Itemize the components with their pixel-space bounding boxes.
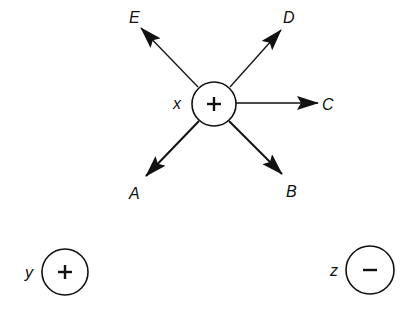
force-arrow-a (146, 121, 199, 176)
arrow-label-b: B (286, 183, 297, 200)
charge-label-z: z (329, 262, 338, 279)
charge-label-y: y (24, 264, 34, 281)
charge-force-diagram: ABCDExyz (0, 0, 409, 323)
arrow-shaft-e (141, 28, 198, 87)
charge-label-x: x (172, 95, 182, 112)
charge-y (42, 249, 88, 295)
force-arrow-d (230, 30, 281, 87)
arrow-label-a: A (128, 185, 140, 202)
force-arrow-b (229, 121, 282, 174)
charge-z (346, 246, 394, 294)
arrow-shaft-a (146, 121, 199, 176)
arrow-label-c: C (322, 96, 334, 113)
force-arrow-e (141, 28, 198, 87)
arrow-label-d: D (283, 9, 295, 26)
arrow-shaft-b (229, 121, 282, 174)
charge-x (192, 82, 236, 126)
arrow-shaft-d (230, 30, 281, 87)
arrow-label-e: E (129, 9, 140, 26)
